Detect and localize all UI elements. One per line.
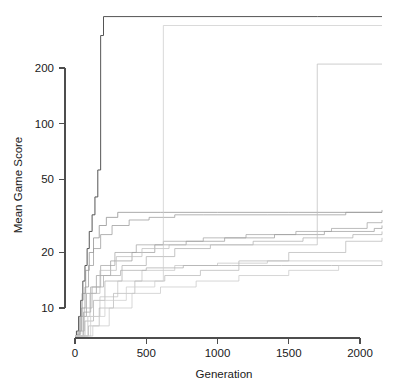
x-axis: 0500100015002000: [72, 338, 373, 359]
series-line: [75, 25, 382, 336]
y-tick-label: 20: [41, 246, 54, 258]
mean-game-score-plot: 102050100200 0500100015002000 Generation…: [0, 0, 400, 390]
series-line: [75, 210, 382, 336]
x-tick-label: 1500: [276, 347, 302, 359]
x-tick-label: 500: [137, 347, 156, 359]
x-tick-label: 0: [72, 347, 78, 359]
series-line: [75, 212, 382, 336]
y-axis: 102050100200: [35, 62, 65, 314]
series-line: [75, 64, 382, 336]
x-tick-label: 2000: [347, 347, 373, 359]
series-line: [75, 220, 382, 336]
y-axis-title: Mean Game Score: [12, 137, 24, 234]
y-axis-ticks: 102050100200: [35, 62, 65, 314]
x-axis-title: Generation: [196, 368, 253, 380]
series-line: [75, 265, 382, 336]
series-line: [75, 261, 382, 336]
series-line: [75, 231, 382, 336]
x-tick-label: 1000: [205, 347, 231, 359]
y-tick-label: 10: [41, 302, 54, 314]
chart-figure: 102050100200 0500100015002000 Generation…: [0, 0, 400, 390]
series-layer: [75, 17, 382, 336]
series-line: [75, 261, 382, 336]
y-tick-label: 100: [35, 118, 54, 130]
series-line: [75, 17, 382, 336]
x-axis-ticks: 0500100015002000: [72, 338, 373, 359]
y-tick-label: 200: [35, 62, 54, 74]
y-tick-label: 50: [41, 173, 54, 185]
